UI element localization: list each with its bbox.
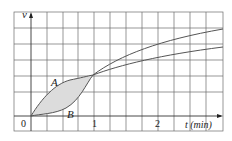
x-axis-arrow-icon xyxy=(217,114,223,118)
y-axis-label: v xyxy=(22,8,27,20)
origin-label: 0 xyxy=(21,118,26,129)
curve-a-label: A xyxy=(50,76,58,88)
tick-label-1: 1 xyxy=(92,118,97,129)
velocity-chart: v 0 1 2 t (min) A B xyxy=(0,0,232,141)
curve-b-label: B xyxy=(67,108,74,120)
x-axis-label: t (min) xyxy=(185,119,213,131)
y-axis-arrow-icon xyxy=(29,12,33,18)
tick-label-2: 2 xyxy=(155,118,160,129)
